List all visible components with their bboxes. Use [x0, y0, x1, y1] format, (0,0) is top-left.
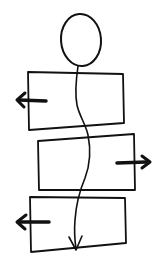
- flow-diagram: [0, 0, 163, 265]
- background: [0, 0, 163, 265]
